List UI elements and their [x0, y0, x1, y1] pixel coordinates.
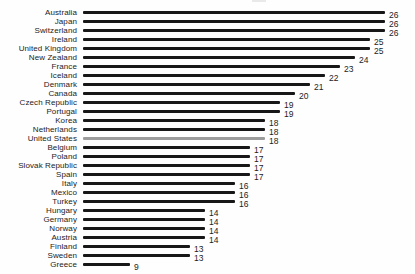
- bar-row: Austria14: [0, 233, 415, 242]
- bar-row: Turkey16: [0, 197, 415, 206]
- value-label: 21: [314, 82, 323, 92]
- bar-row: Poland17: [0, 152, 415, 161]
- value-label: 26: [389, 28, 398, 38]
- value-label: 17: [254, 172, 263, 182]
- country-label: Ireland: [0, 35, 77, 44]
- bar: [83, 254, 190, 257]
- country-label: United States: [0, 134, 77, 143]
- value-label: 13: [194, 253, 203, 263]
- bar: [83, 38, 370, 41]
- bar: [83, 227, 205, 230]
- country-label: Korea: [0, 116, 77, 125]
- bar: [83, 146, 250, 149]
- country-label: Denmark: [0, 80, 77, 89]
- bar-row: Slovak Republic17: [0, 161, 415, 170]
- country-label: Australia: [0, 8, 77, 17]
- bar: [83, 119, 265, 122]
- value-label: 23: [344, 64, 353, 74]
- bar-row: Germany14: [0, 215, 415, 224]
- bar: [83, 209, 205, 212]
- bar-row: Greece9: [0, 260, 415, 269]
- value-label: 14: [209, 235, 218, 245]
- bar: [83, 182, 235, 185]
- value-label: 9: [134, 262, 139, 272]
- country-label: Canada: [0, 89, 77, 98]
- bar: [83, 11, 385, 14]
- country-label: Switzerland: [0, 26, 77, 35]
- bar: [83, 164, 250, 167]
- value-label: 22: [329, 73, 338, 83]
- bar-row: United Kingdom25: [0, 44, 415, 53]
- bar-row: Denmark21: [0, 80, 415, 89]
- bar: [83, 155, 250, 158]
- country-label: France: [0, 62, 77, 71]
- value-label: 18: [269, 136, 278, 146]
- value-label: 24: [359, 55, 368, 65]
- bar-row: Finland13: [0, 242, 415, 251]
- value-label: 25: [374, 46, 383, 56]
- cropped-title-artifact: [252, 0, 266, 2]
- bar-row: Korea18: [0, 116, 415, 125]
- bar: [83, 20, 385, 23]
- bar-row: Mexico16: [0, 188, 415, 197]
- bar: [83, 83, 310, 86]
- bar-row: United States18: [0, 134, 415, 143]
- bar-row: Canada20: [0, 89, 415, 98]
- bar: [83, 74, 325, 77]
- country-label: Iceland: [0, 71, 77, 80]
- country-label: Finland: [0, 242, 77, 251]
- bar: [83, 173, 250, 176]
- bar: [83, 65, 340, 68]
- bar: [83, 191, 235, 194]
- bar: [83, 236, 205, 239]
- bar-row: France23: [0, 62, 415, 71]
- bar-row: Japan26: [0, 17, 415, 26]
- value-label: 19: [284, 109, 293, 119]
- bar: [83, 218, 205, 221]
- country-label: Spain: [0, 170, 77, 179]
- bar-row: Ireland25: [0, 35, 415, 44]
- bar-row: Italy16: [0, 179, 415, 188]
- bar-row: Netherlands18: [0, 125, 415, 134]
- bar-row: Sweden13: [0, 251, 415, 260]
- bar: [83, 56, 355, 59]
- country-label: New Zealand: [0, 53, 77, 62]
- bar: [83, 110, 280, 113]
- country-label: United Kingdom: [0, 44, 77, 53]
- bar: [83, 47, 370, 50]
- country-label: Czech Republic: [0, 98, 77, 107]
- country-label: Poland: [0, 152, 77, 161]
- bar: [83, 29, 385, 32]
- country-label: Greece: [0, 260, 77, 269]
- bar-row: Czech Republic19: [0, 98, 415, 107]
- country-label: Belgium: [0, 143, 77, 152]
- country-label: Hungary: [0, 206, 77, 215]
- bar-row: Spain17: [0, 170, 415, 179]
- bar: [83, 128, 265, 131]
- country-label: Japan: [0, 17, 77, 26]
- bar: [83, 200, 235, 203]
- country-label: Mexico: [0, 188, 77, 197]
- country-label: Sweden: [0, 251, 77, 260]
- bar-rows-container: Australia26Japan26Switzerland26Ireland25…: [0, 8, 415, 269]
- country-label: Portugal: [0, 107, 77, 116]
- bar-row: Switzerland26: [0, 26, 415, 35]
- country-label: Germany: [0, 215, 77, 224]
- bar-row: New Zealand24: [0, 53, 415, 62]
- bar-row: Portugal19: [0, 107, 415, 116]
- country-label: Austria: [0, 233, 77, 242]
- value-label: 20: [299, 91, 308, 101]
- country-label: Norway: [0, 224, 77, 233]
- bar-row: Belgium17: [0, 143, 415, 152]
- bar: [83, 101, 280, 104]
- country-label: Slovak Republic: [0, 161, 77, 170]
- bar: [83, 263, 130, 266]
- bar: [83, 245, 190, 248]
- bar: [83, 137, 265, 140]
- bar-row: Norway14: [0, 224, 415, 233]
- country-label: Turkey: [0, 197, 77, 206]
- horizontal-bar-chart: Australia26Japan26Switzerland26Ireland25…: [0, 0, 415, 274]
- value-label: 16: [239, 199, 248, 209]
- bar-row: Australia26: [0, 8, 415, 17]
- country-label: Netherlands: [0, 125, 77, 134]
